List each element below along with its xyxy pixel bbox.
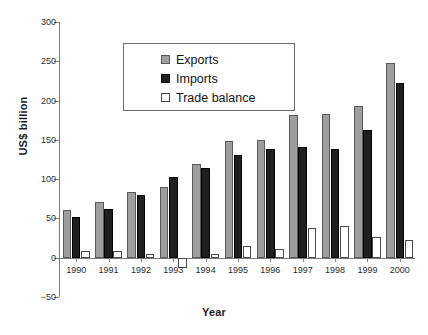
bar-imports	[331, 149, 340, 257]
bar-trade-balance	[146, 254, 155, 258]
legend-label-imports: Imports	[176, 72, 218, 86]
bar-imports	[396, 83, 405, 257]
bar-exports	[322, 114, 331, 258]
y-tick-label: 250	[41, 56, 56, 66]
y-tick-label: 0	[51, 253, 56, 263]
bar-imports	[266, 149, 275, 257]
bar-group	[386, 22, 413, 297]
bar-exports	[160, 187, 169, 258]
x-tick-label: 1994	[192, 265, 220, 275]
y-tick-label: −50	[41, 292, 56, 302]
bar-exports	[386, 63, 395, 258]
imports-swatch-icon	[161, 74, 170, 83]
bar-exports	[127, 192, 136, 258]
bar-imports	[137, 195, 146, 258]
y-tick-label: 50	[46, 213, 56, 223]
bar-trade-balance	[113, 251, 122, 258]
x-axis-title: Year	[0, 306, 428, 318]
bar-exports	[225, 141, 234, 257]
bar-imports	[234, 155, 243, 258]
legend-label-exports: Exports	[176, 53, 218, 67]
bar-imports	[72, 217, 81, 258]
bar-group	[354, 22, 381, 297]
bar-trade-balance	[405, 240, 414, 257]
bar-trade-balance	[211, 254, 220, 258]
bar-group	[95, 22, 122, 297]
y-tick-label: 100	[41, 174, 56, 184]
trade-balance-swatch-icon	[161, 93, 170, 102]
bar-exports	[63, 210, 72, 258]
y-tick-label: 300	[41, 17, 56, 27]
bar-trade-balance	[275, 249, 284, 258]
bar-exports	[289, 115, 298, 258]
bar-exports	[192, 164, 201, 258]
bar-trade-balance	[308, 228, 317, 258]
bar-trade-balance	[340, 226, 349, 257]
exports-swatch-icon	[161, 55, 170, 64]
legend-item-exports: Exports	[124, 50, 294, 69]
legend-label-trade-balance: Trade balance	[176, 91, 255, 105]
bar-chart-figure: US$ billion −50050100150200250300 199019…	[0, 0, 428, 335]
bar-trade-balance	[372, 237, 381, 257]
x-tick-label: 2000	[386, 265, 414, 275]
bar-imports	[201, 168, 210, 258]
bar-imports	[104, 209, 113, 258]
bar-imports	[298, 147, 307, 258]
bar-exports	[257, 140, 266, 258]
x-tick-label: 1992	[127, 265, 155, 275]
x-tick-label: 1996	[256, 265, 284, 275]
x-tick-label: 1997	[289, 265, 317, 275]
y-axis-title: US$ billion	[17, 81, 29, 171]
x-tick-label: 1990	[62, 265, 90, 275]
bar-imports	[363, 130, 372, 258]
legend-item-trade-balance: Trade balance	[124, 88, 294, 107]
x-tick-label: 1998	[321, 265, 349, 275]
bar-exports	[95, 202, 104, 258]
bar-group	[322, 22, 349, 297]
legend-item-imports: Imports	[124, 69, 294, 88]
y-tick-label: 200	[41, 96, 56, 106]
bar-group	[63, 22, 90, 297]
x-tick-label: 1999	[353, 265, 381, 275]
chart-legend: Exports Imports Trade balance	[123, 43, 295, 111]
bar-trade-balance	[81, 251, 90, 258]
x-tick-label: 1991	[95, 265, 123, 275]
bar-trade-balance	[243, 246, 252, 258]
bar-exports	[354, 106, 363, 258]
y-tick-label: 150	[41, 135, 56, 145]
y-axis-line	[59, 22, 60, 297]
x-tick-label: 1995	[224, 265, 252, 275]
bar-imports	[169, 177, 178, 258]
x-tick-label: 1993	[159, 265, 187, 275]
